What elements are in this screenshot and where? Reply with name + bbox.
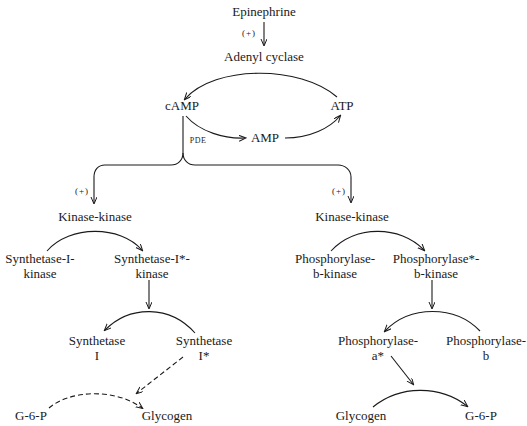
camp-brace-right xyxy=(183,153,351,202)
label-plus-right: (+) xyxy=(332,184,346,199)
glycogen-metabolism-diagram: Epinephrine (+) Adenyl cyclase cAMP ATP … xyxy=(0,0,527,426)
label-phosphorylase-a-star: Phosphorylase- a* xyxy=(338,333,418,363)
arc-atp-to-camp xyxy=(185,73,337,99)
arc-phosphorylase-activation xyxy=(385,312,480,332)
label-amp: AMP xyxy=(251,130,279,145)
arc-g6p-to-glycogen xyxy=(49,394,142,408)
label-kinase-kinase-right: Kinase-kinase xyxy=(315,209,389,224)
label-g6p-left: G-6-P xyxy=(15,408,47,423)
label-synthetase-i-star: Synthetase I* xyxy=(176,333,232,363)
arc-glycogen-to-g6p xyxy=(373,390,467,407)
label-synthetase-i-kinase: Synthetase-I- kinase xyxy=(5,251,74,281)
label-phosphorylase-b-kinase: Phosphorylase- b-kinase xyxy=(295,251,375,281)
label-synthetase-i: Synthetase I xyxy=(69,333,125,363)
label-kinase-kinase-left: Kinase-kinase xyxy=(58,209,132,224)
label-g6p-right: G-6-P xyxy=(465,408,497,423)
label-epinephrine: Epinephrine xyxy=(232,4,296,19)
label-synthetase-i-star-kinase: Synthetase-I*- kinase xyxy=(114,251,190,281)
label-phosphorylase-star-b-kinase: Phosphorylase*- b-kinase xyxy=(393,251,480,281)
label-glycogen-right: Glycogen xyxy=(336,408,387,423)
arc-synthetase-i-kinase-activation xyxy=(47,231,142,251)
label-glycogen-left: Glycogen xyxy=(142,408,193,423)
label-pde: PDE xyxy=(190,133,207,148)
label-camp: cAMP xyxy=(165,98,199,113)
arc-synthetase-inactivation xyxy=(105,312,195,333)
label-adenyl-cyclase: Adenyl cyclase xyxy=(224,49,304,64)
label-plus-left: (+) xyxy=(75,184,89,199)
label-atp: ATP xyxy=(330,98,353,113)
label-phosphorylase-b: Phosphorylase- b xyxy=(446,333,526,363)
arc-phosphorylase-b-kinase-activation xyxy=(331,231,424,251)
label-plus-epinephrine: (+) xyxy=(242,26,256,41)
camp-stem xyxy=(94,116,183,203)
arrow-amp-to-atp xyxy=(285,116,340,138)
